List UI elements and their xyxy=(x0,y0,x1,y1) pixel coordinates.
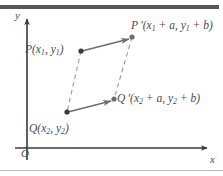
point-label-p-prime: P '(x1 + a, y1 + b) xyxy=(131,20,213,32)
point-label-p: P(x1, y1) xyxy=(25,44,63,56)
point-label-q: Q(x2, y2) xyxy=(29,123,69,135)
translation-vector-p-to-pprime xyxy=(82,39,129,51)
translation-vector-q-to-qprime xyxy=(68,101,111,112)
point-label-q-prime: Q '(x2 + a, y2 + b) xyxy=(117,93,200,105)
bottom-divider-rule xyxy=(0,170,223,171)
y-axis-label: y xyxy=(15,10,20,21)
dashed-segment-p-to-q xyxy=(67,51,81,112)
point-marker-p-prime xyxy=(129,34,134,39)
x-axis-label: x xyxy=(210,154,215,165)
dashed-segment-pprime-to-qprime xyxy=(114,37,132,99)
point-marker-q xyxy=(64,109,69,114)
point-marker-q-prime xyxy=(111,96,116,101)
figure-container: P '(x1 + a, y1 + b) P(x1, y1) Q '(x2 + a… xyxy=(0,0,223,176)
origin-label: O xyxy=(21,148,29,159)
point-marker-p xyxy=(78,48,83,53)
